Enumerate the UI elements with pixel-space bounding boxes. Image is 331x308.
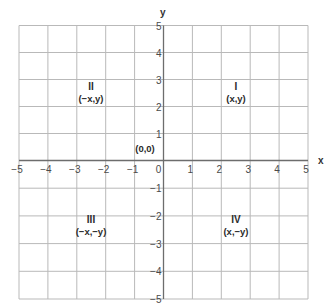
y-tick-label: 1	[156, 129, 162, 140]
quadrant-iii-coords: (−x,−y)	[76, 226, 107, 237]
x-axis-label: x	[318, 155, 324, 166]
x-tick-label: 0	[156, 164, 162, 175]
quadrant-i-name: I	[235, 81, 238, 92]
quadrant-ii-name: II	[88, 81, 94, 92]
origin-label: (0,0)	[135, 143, 155, 154]
x-tick-label: −5	[11, 164, 23, 175]
quadrant-iv: IV (x,−y)	[223, 214, 248, 237]
quadrant-iv-name: IV	[231, 214, 241, 225]
quadrant-i-coords: (x,y)	[226, 93, 246, 104]
y-tick-label: 3	[156, 75, 162, 86]
quadrant-ii-coords: (−x,y)	[78, 93, 103, 104]
y-tick-label: −1	[150, 183, 162, 194]
y-tick-label: −4	[150, 266, 162, 277]
y-tick-label: 4	[156, 48, 162, 59]
x-tick-label: 3	[245, 164, 251, 175]
quadrant-i: I (x,y)	[226, 81, 246, 104]
y-tick-label: −2	[150, 211, 162, 222]
axes	[19, 26, 308, 300]
x-tick-label: −2	[98, 164, 110, 175]
x-tick-label: −1	[127, 164, 139, 175]
y-tick-label: −3	[150, 239, 162, 250]
quadrant-iii: III (−x,−y)	[76, 214, 107, 237]
quadrant-ii: II (−x,y)	[78, 81, 103, 104]
tick-labels: −5−4−3−2−101234554321−1−2−3−4−5	[11, 21, 309, 306]
y-axis-label: y	[160, 7, 166, 18]
x-tick-label: 1	[188, 164, 194, 175]
y-tick-label: 5	[156, 21, 162, 32]
x-tick-label: 4	[274, 164, 280, 175]
quadrant-iv-coords: (x,−y)	[223, 226, 248, 237]
x-tick-label: 5	[303, 164, 309, 175]
coordinate-plane: −5−4−3−2−101234554321−1−2−3−4−5 y x (0,0…	[0, 0, 331, 308]
x-tick-label: 2	[217, 164, 223, 175]
x-tick-label: −4	[40, 164, 52, 175]
quadrant-iii-name: III	[87, 214, 96, 225]
y-tick-label: 2	[156, 102, 162, 113]
x-tick-label: −3	[69, 164, 81, 175]
y-tick-label: −5	[150, 294, 162, 305]
